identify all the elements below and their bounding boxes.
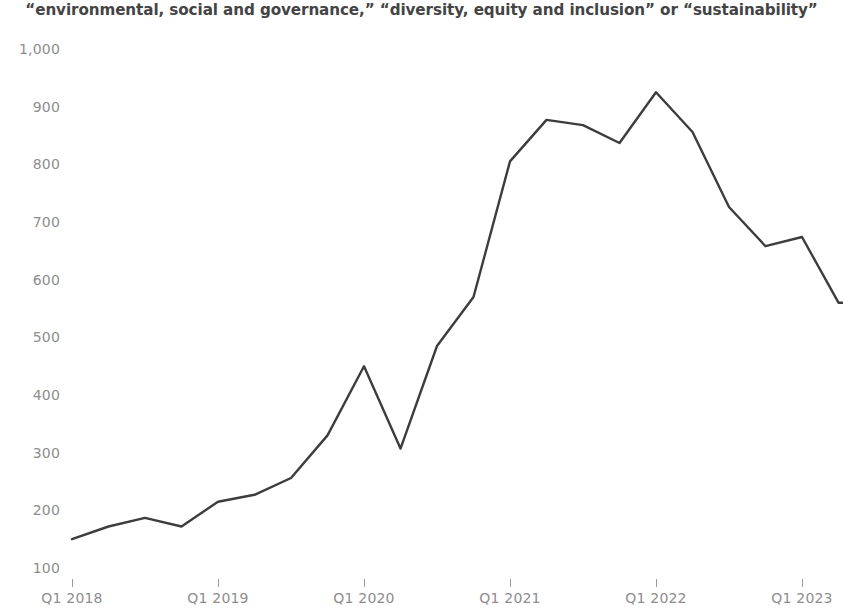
x-tick-label: Q1 2021 — [479, 590, 540, 606]
x-tick-label: Q1 2022 — [625, 590, 686, 606]
x-tick-mark — [510, 579, 511, 587]
x-tick-mark — [364, 579, 365, 587]
x-tick-mark — [656, 579, 657, 587]
x-tick-label: Q1 2020 — [333, 590, 394, 606]
x-tick-mark — [802, 579, 803, 587]
x-tick-label: Q1 2019 — [187, 590, 248, 606]
x-tick-mark — [218, 579, 219, 587]
x-axis: Q1 2018Q1 2019Q1 2020Q1 2021Q1 2022Q1 20… — [0, 0, 843, 616]
x-tick-label: Q1 2023 — [771, 590, 832, 606]
chart-figure: “environmental, social and governance,” … — [0, 0, 843, 616]
x-tick-label: Q1 2018 — [41, 590, 102, 606]
x-tick-mark — [72, 579, 73, 587]
